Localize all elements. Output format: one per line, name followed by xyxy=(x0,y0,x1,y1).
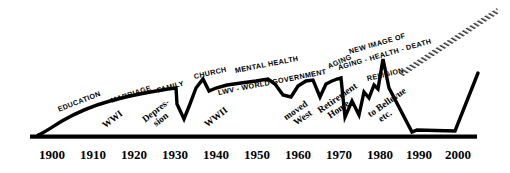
x-tick-label-1910: 1910 xyxy=(80,147,106,163)
x-tick-label-1960: 1960 xyxy=(285,147,311,163)
x-tick-label-1990: 1990 xyxy=(406,147,432,163)
x-tick-label-1930: 1930 xyxy=(162,147,188,163)
x-tick-label-1950: 1950 xyxy=(244,147,270,163)
x-tick-label-2000: 2000 xyxy=(445,147,471,163)
x-axis-baseline xyxy=(30,135,477,139)
x-tick-label-1900: 1900 xyxy=(39,147,65,163)
x-tick-label-1980: 1980 xyxy=(367,147,393,163)
x-tick-label-1940: 1940 xyxy=(203,147,229,163)
x-axis-year-labels: 1900 1910 1920 1930 1940 1950 1960 1970 … xyxy=(0,147,510,167)
life-timeline-chart: EDUCATION MARRIAGE FAMILY CHURCH MENTAL … xyxy=(0,0,510,173)
x-tick-label-1970: 1970 xyxy=(326,147,352,163)
x-tick-label-1920: 1920 xyxy=(121,147,147,163)
